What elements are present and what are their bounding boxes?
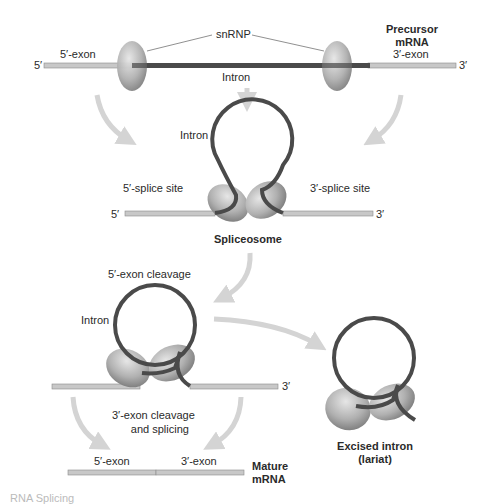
arrow-right-1 xyxy=(372,95,401,140)
three-prime-label-3: 3′ xyxy=(282,381,290,392)
exon3-cleavage-label: 3′-exon cleavage and splicing xyxy=(112,408,195,437)
mature-mrna xyxy=(68,470,244,475)
intron-label-3: Intron xyxy=(81,315,109,326)
snrnp-label: snRNP xyxy=(216,29,251,40)
exon3-label-1: 3′-exon xyxy=(393,49,429,60)
arrow-center-2 xyxy=(222,253,250,298)
splice5-label: 5′-splice site xyxy=(123,183,183,194)
exon5-cleavage-label: 5′-exon cleavage xyxy=(108,269,191,280)
excised-lariat xyxy=(319,318,421,437)
splice3-label: 3′-splice site xyxy=(310,183,370,194)
intron-label-2: Intron xyxy=(180,130,208,141)
spliceosome-title: Spliceosome xyxy=(214,233,282,246)
cleavage-intermediate xyxy=(52,285,278,395)
five-prime-label-2: 5′ xyxy=(111,209,119,220)
exon3-label-4: 3′-exon xyxy=(181,456,217,467)
arrow-to-lariat xyxy=(214,319,318,345)
mature-mrna-title: Mature mRNA xyxy=(252,460,288,485)
arrow-right-3 xyxy=(212,397,241,445)
spliceosome xyxy=(125,99,373,229)
figure-caption: RNA Splicing xyxy=(10,492,74,504)
lariat-title: Excised intron (lariat) xyxy=(334,440,416,465)
exon5-label-1: 5′-exon xyxy=(60,49,96,60)
five-prime-label-1: 5′ xyxy=(34,60,42,71)
arrow-left-3 xyxy=(73,397,102,445)
exon5-label-4: 5′-exon xyxy=(94,456,130,467)
three-prime-label-2: 3′ xyxy=(376,209,384,220)
precursor-mrna-title: Precursor mRNA xyxy=(386,23,438,48)
three-prime-label-1: 3′ xyxy=(459,60,467,71)
intron-label-1: Intron xyxy=(222,72,250,83)
arrow-left-1 xyxy=(97,95,128,140)
